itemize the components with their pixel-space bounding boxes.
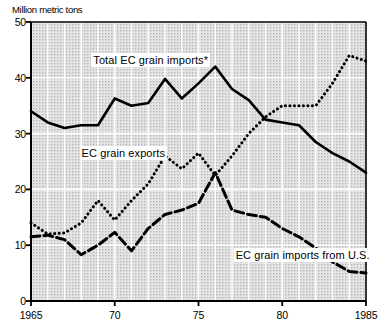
y-axis-tick-label: 30 — [0, 128, 26, 140]
series-annotation-label: EC grain imports from U.S. — [234, 248, 372, 262]
x-axis-tick-label: 75 — [193, 309, 204, 321]
x-axis-tick-label: 1965 — [20, 309, 43, 321]
chart-plot-area — [0, 0, 385, 332]
y-axis-tick-label: 10 — [0, 239, 26, 251]
chart-container: Million metric tons 01020304050196570758… — [0, 0, 385, 332]
y-axis-tick-label: 40 — [0, 72, 26, 84]
y-axis-tick-label: 50 — [0, 16, 26, 28]
series-annotation-label: Total EC grain imports* — [91, 53, 210, 67]
x-axis-tick-label: 80 — [277, 309, 288, 321]
series-annotation-label: EC grain exports — [80, 146, 168, 160]
x-axis-tick-label: 1985 — [355, 309, 378, 321]
y-axis-tick-label: 20 — [0, 183, 26, 195]
y-axis-tick-label: 0 — [0, 295, 26, 307]
x-axis-tick-label: 70 — [109, 309, 120, 321]
